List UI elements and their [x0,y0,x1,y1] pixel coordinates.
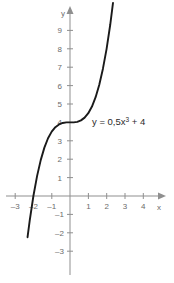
y-tick-label: 9 [58,26,63,35]
y-tick-label: 8 [58,45,63,54]
y-tick-label: –3 [55,247,64,256]
x-tick-label: 4 [141,202,146,211]
y-tick-label: –1 [55,210,64,219]
y-tick-label: 1 [58,174,63,183]
equation-tail: + 4 [129,116,145,127]
y-tick-label: 7 [58,63,63,72]
x-axis [6,193,166,200]
equation-main: y = 0,5x [92,116,126,127]
x-tick-label: –3 [11,202,20,211]
equation-annotation: y = 0,5x3 + 4 [92,116,145,128]
x-tick-label: 1 [86,202,91,211]
y-tick-label: –2 [55,229,64,238]
x-tick-label: 3 [123,202,128,211]
y-tick-labels: 1 2 3 4 5 6 7 8 9 –1 –2 –3 [55,26,64,256]
y-tick-label: 5 [58,100,63,109]
plot-canvas: –3 –2 –1 1 2 3 4 1 2 3 4 5 6 7 8 9 –1 –2… [0,0,174,283]
y-tick-label: 3 [58,137,63,146]
y-tick-label: 6 [58,82,63,91]
x-tick-label: 2 [104,202,109,211]
x-axis-name: x [157,203,161,212]
y-axis-name: y [61,9,65,18]
y-tick-label: 2 [58,155,63,164]
function-plot-figure: –3 –2 –1 1 2 3 4 1 2 3 4 5 6 7 8 9 –1 –2… [0,0,174,283]
